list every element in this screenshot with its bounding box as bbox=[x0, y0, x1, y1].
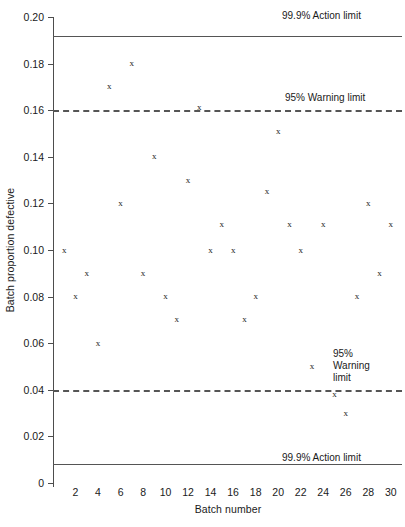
y-axis-tick bbox=[48, 297, 53, 298]
data-point: x bbox=[364, 198, 373, 209]
data-point: x bbox=[285, 219, 294, 230]
y-axis-tick-label: 0.06 bbox=[4, 338, 44, 348]
x-axis-tick-label: 26 bbox=[335, 487, 357, 498]
x-axis-tick-label: 4 bbox=[87, 487, 109, 498]
limit-line-upper-action bbox=[53, 36, 402, 37]
data-point: x bbox=[94, 338, 103, 349]
y-axis-tick bbox=[48, 436, 53, 437]
x-axis-tick-label: 12 bbox=[177, 487, 199, 498]
limit-line-lower-action bbox=[53, 464, 402, 465]
limit-label-upper-warning: 95% Warning limit bbox=[285, 92, 365, 104]
data-point: x bbox=[127, 58, 136, 69]
data-point: x bbox=[296, 245, 305, 256]
limit-line-upper-warning bbox=[53, 110, 402, 112]
x-axis-tick-label: 2 bbox=[65, 487, 87, 498]
data-point: x bbox=[139, 268, 148, 279]
y-axis-tick-label: 0.18 bbox=[4, 59, 44, 69]
y-axis-tick bbox=[48, 250, 53, 251]
data-point: x bbox=[319, 219, 328, 230]
y-axis-tick-label: 0.20 bbox=[4, 12, 44, 22]
data-point: x bbox=[195, 102, 204, 113]
x-axis-tick-label: 30 bbox=[380, 487, 402, 498]
y-axis-tick-label: 0.12 bbox=[4, 198, 44, 208]
data-point: x bbox=[82, 268, 91, 279]
y-axis-tick bbox=[48, 64, 53, 65]
y-axis-tick bbox=[48, 157, 53, 158]
x-axis-tick-label: 24 bbox=[312, 487, 334, 498]
data-point: x bbox=[341, 408, 350, 419]
x-axis-origin-tick bbox=[53, 483, 54, 487]
y-axis-tick-label: 0 bbox=[4, 478, 44, 488]
y-axis-tick-label: 0.04 bbox=[4, 385, 44, 395]
data-point: x bbox=[105, 81, 114, 92]
data-point: x bbox=[217, 219, 226, 230]
x-axis-tick-label: 20 bbox=[267, 487, 289, 498]
y-axis-tick-label: 0.02 bbox=[4, 431, 44, 441]
data-point: x bbox=[60, 245, 69, 256]
y-axis-tick-label: 0.16 bbox=[4, 105, 44, 115]
x-axis-tick-label: 14 bbox=[200, 487, 222, 498]
data-point: x bbox=[172, 314, 181, 325]
x-axis-tick-label: 8 bbox=[132, 487, 154, 498]
data-point: x bbox=[71, 291, 80, 302]
data-point: x bbox=[184, 175, 193, 186]
y-axis-tick bbox=[48, 203, 53, 204]
y-axis-tick bbox=[48, 17, 53, 18]
data-point: x bbox=[375, 268, 384, 279]
data-point: x bbox=[352, 291, 361, 302]
limit-line-lower-warning bbox=[53, 390, 402, 392]
x-axis-tick-label: 16 bbox=[222, 487, 244, 498]
limit-label-upper-action: 99.9% Action limit bbox=[282, 10, 361, 22]
y-axis-line bbox=[53, 17, 54, 483]
data-point: x bbox=[229, 245, 238, 256]
data-point: x bbox=[116, 198, 125, 209]
y-axis-tick bbox=[48, 483, 53, 484]
x-axis-tick-label: 10 bbox=[155, 487, 177, 498]
data-point: x bbox=[274, 126, 283, 137]
x-axis-tick-label: 18 bbox=[245, 487, 267, 498]
x-axis-title: Batch number bbox=[53, 503, 403, 515]
control-chart: Batch proportion defective 0.200.180.160… bbox=[0, 0, 405, 527]
y-axis-tick-label: 0.08 bbox=[4, 292, 44, 302]
x-axis-tick-label: 28 bbox=[357, 487, 379, 498]
data-point: x bbox=[251, 291, 260, 302]
data-point: x bbox=[330, 389, 339, 400]
data-point: x bbox=[150, 151, 159, 162]
x-axis-tick-label: 6 bbox=[110, 487, 132, 498]
limit-label-lower-warning: 95% Warning limit bbox=[333, 348, 370, 384]
y-axis-tick-label: 0.10 bbox=[4, 245, 44, 255]
x-axis-tick-label: 22 bbox=[290, 487, 312, 498]
y-axis-tick bbox=[48, 343, 53, 344]
limit-label-lower-action: 99.9% Action limit bbox=[282, 452, 361, 464]
data-point: x bbox=[161, 291, 170, 302]
data-point: x bbox=[386, 219, 395, 230]
data-point: x bbox=[240, 314, 249, 325]
data-point: x bbox=[206, 245, 215, 256]
data-point: x bbox=[262, 186, 271, 197]
data-point: x bbox=[307, 361, 316, 372]
y-axis-tick-label: 0.14 bbox=[4, 152, 44, 162]
